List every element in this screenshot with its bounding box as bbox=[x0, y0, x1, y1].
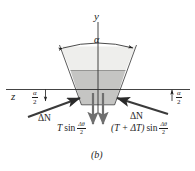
tension-right-function: sin bbox=[146, 123, 157, 133]
half-angle-fraction-left: α 2 bbox=[32, 90, 38, 106]
tension-left-formula: T sin Δθ2 bbox=[57, 122, 86, 136]
figure-drawing bbox=[0, 0, 195, 171]
cone-half-angle-right-label: α 2 bbox=[176, 89, 182, 106]
z-axis-label: z bbox=[11, 91, 15, 102]
tension-left-fraction: Δθ2 bbox=[77, 121, 85, 135]
figure-container: y z α α 2 α 2 ΔN ΔN T sin Δθ2 (T + ΔT) s… bbox=[0, 0, 195, 171]
cone-half-angle-left-label: α 2 bbox=[32, 89, 38, 106]
tension-right-formula: (T + ΔT) sin Δθ2 bbox=[111, 122, 168, 136]
tension-right-prefix: (T + ΔT) bbox=[111, 123, 144, 133]
tension-left-function: sin bbox=[64, 123, 75, 133]
y-axis-label: y bbox=[94, 11, 99, 22]
figure-caption: (b) bbox=[91, 150, 103, 160]
tension-right-fraction: Δθ2 bbox=[159, 121, 167, 135]
cone-angle-label: α bbox=[94, 35, 99, 45]
normal-force-right-label: ΔN bbox=[130, 112, 143, 122]
half-angle-fraction-right: α 2 bbox=[176, 90, 182, 106]
normal-force-left-label: ΔN bbox=[38, 114, 51, 124]
